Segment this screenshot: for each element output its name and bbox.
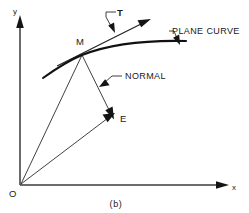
x-axis-arrowhead [216, 181, 229, 189]
point-label-e: E [120, 113, 127, 124]
origin-label: O [9, 188, 17, 199]
tangent-line [57, 23, 143, 66]
axis-group [16, 15, 229, 189]
point-label-m: M [76, 36, 84, 47]
tangent-arrowhead [138, 19, 152, 27]
y-axis-arrowhead [16, 15, 24, 28]
vector-group [21, 55, 115, 184]
normal-label: NORMAL [125, 71, 166, 81]
y-axis-label: y [13, 7, 17, 16]
tangent-leader-group [106, 12, 116, 33]
normal-leader-group [99, 76, 122, 87]
figure-caption: (b) [110, 199, 123, 209]
vector-o-to-e [21, 118, 108, 184]
tangent-leader-arrowhead [108, 22, 115, 33]
vector-o-to-m [21, 55, 82, 184]
x-axis-label: x [232, 183, 236, 192]
tangent-leader-line [106, 12, 116, 17]
plane-curve-label: PLANE CURVE [172, 26, 240, 36]
tangent-vector-label: T [117, 7, 123, 18]
normal-leader-arrowhead [99, 79, 110, 87]
vector-plane-curve-figure: y x O M E T PLANE CURVE NORMAL (b) [0, 0, 249, 213]
